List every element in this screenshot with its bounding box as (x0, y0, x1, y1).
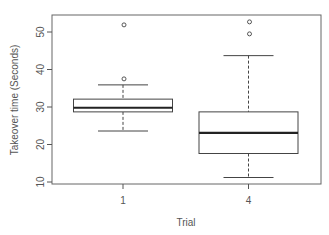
y-tick-label: 20 (35, 139, 46, 151)
y-axis-label: Takeover time (Seconds) (9, 45, 20, 156)
y-tick-label: 10 (35, 176, 46, 188)
x-tick-label: 4 (246, 195, 252, 206)
outlier-point (122, 77, 126, 81)
box-4 (199, 20, 298, 178)
y-tick-label: 50 (35, 26, 46, 38)
outlier-point (248, 20, 252, 24)
boxplot-chart: 1020304050 14 Trial Takeover time (Secon… (0, 0, 329, 235)
y-tick-label: 30 (35, 101, 46, 113)
outlier-point (122, 23, 126, 27)
x-axis: 14 (120, 184, 252, 206)
box-series (74, 20, 299, 178)
box-1 (74, 23, 173, 131)
x-tick-label: 1 (120, 195, 126, 206)
outlier-point (248, 32, 252, 36)
y-axis: 1020304050 (35, 26, 53, 188)
iqr-box (74, 99, 173, 112)
x-axis-label: Trial (176, 217, 195, 228)
y-tick-label: 40 (35, 64, 46, 76)
